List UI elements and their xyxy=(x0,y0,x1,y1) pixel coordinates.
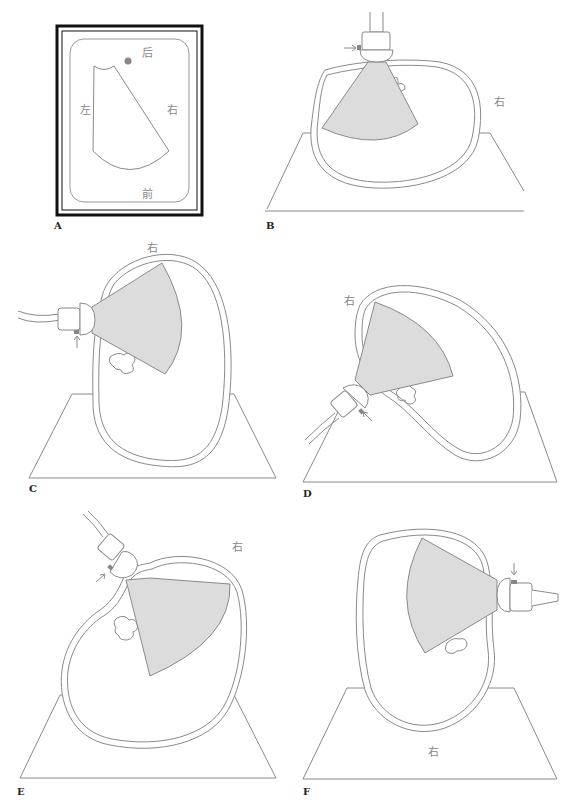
label-anterior: 前 xyxy=(142,187,153,201)
probe-orientation-marker xyxy=(74,330,79,334)
side-label-right: 右 xyxy=(344,294,355,308)
probe-cable-icon xyxy=(18,311,60,322)
label-right: 右 xyxy=(167,103,178,117)
probe-body xyxy=(362,32,390,50)
panel-label-b: B xyxy=(266,220,274,231)
probe-orientation-marker xyxy=(511,580,517,584)
side-label-right: 右 xyxy=(232,540,243,554)
label-left: 左 xyxy=(80,104,91,117)
side-label-right: 右 xyxy=(428,745,439,759)
sector-image-outline xyxy=(93,66,169,170)
probe-body xyxy=(510,583,532,611)
panel-b: 右 B xyxy=(265,12,524,231)
side-label-right: 右 xyxy=(494,95,505,109)
side-label-right: 右 xyxy=(147,241,158,255)
panel-f: 右 F xyxy=(303,529,558,797)
panel-c: 右 C xyxy=(18,241,276,494)
arrow-down-icon xyxy=(511,563,517,575)
probe-cable-icon xyxy=(532,590,558,606)
panel-label-c: C xyxy=(29,483,37,494)
label-posterior: 后 xyxy=(142,47,153,60)
panel-label-d: D xyxy=(303,488,312,499)
panel-a: 后 左 右 前 A xyxy=(53,26,202,231)
orientation-dot-icon xyxy=(125,58,132,65)
probe-body xyxy=(58,308,80,330)
probe-cable-icon xyxy=(370,12,383,32)
arrow-right-icon xyxy=(344,45,356,51)
probe-orientation-marker xyxy=(357,45,361,50)
panel-label-a: A xyxy=(53,220,62,231)
panel-e: 右 E xyxy=(17,511,276,797)
arrow-up-left-icon xyxy=(363,412,372,421)
panel-label-f: F xyxy=(303,786,310,797)
arrow-up-icon xyxy=(74,336,80,348)
probe-head xyxy=(360,50,393,62)
probe-cable-icon xyxy=(83,511,108,537)
panel-label-e: E xyxy=(17,786,25,797)
arrow-up-right-icon xyxy=(96,574,105,582)
panel-d: 右 D xyxy=(303,286,557,499)
monitor-outer-frame xyxy=(57,26,202,215)
probe-cable-icon xyxy=(305,413,339,444)
probe-head xyxy=(497,578,510,612)
